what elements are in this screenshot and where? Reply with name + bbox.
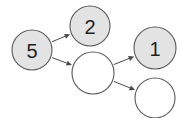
edge-line: [52, 36, 65, 41]
diagram-canvas: 521: [0, 0, 182, 118]
node-label: 1: [149, 38, 160, 60]
graph-node[interactable]: 2: [70, 6, 110, 46]
graph-node[interactable]: [135, 78, 175, 118]
graph-node[interactable]: 1: [134, 27, 176, 69]
node-circle[interactable]: [72, 52, 114, 94]
edge-line: [114, 81, 130, 87]
graph-edge: [114, 56, 134, 65]
node-circle[interactable]: [135, 78, 175, 118]
graph-edge: [114, 81, 135, 90]
graph-edge: [52, 58, 72, 66]
node-label: 5: [26, 40, 37, 62]
directed-graph: 521: [0, 0, 182, 118]
edge-line: [52, 58, 67, 64]
graph-node[interactable]: 5: [12, 30, 52, 70]
graph-edge: [52, 34, 70, 42]
graph-node[interactable]: [72, 52, 114, 94]
edge-line: [114, 58, 129, 64]
node-label: 2: [84, 16, 95, 38]
graph-nodes-layer: 521: [12, 6, 176, 118]
